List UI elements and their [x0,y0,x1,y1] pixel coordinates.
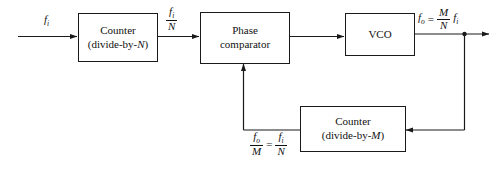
label-vco-output-equation: fo = M N fi [418,7,458,31]
vco-output-rhs: fi [453,11,458,26]
vco-output-lhs: fo [418,11,425,26]
counter-n-divisor: N [137,38,144,50]
phase-comparator-label-line2: comparator [220,38,270,52]
fraction-fi-over-n-feedback: fi N [275,131,286,158]
vco-label: VCO [368,28,391,42]
feedback-equals: = [266,138,272,150]
vco-output-equals: = [428,13,434,25]
phase-comparator-label-line1: Phase [232,24,258,38]
fraction-fo-over-m: fo M [250,131,263,158]
pll-block-diagram: Counter (divide-by-N) Phase comparator V… [0,0,498,169]
counter-m-label-line1: Counter [335,115,370,129]
block-phase-comparator[interactable]: Phase comparator [200,12,290,64]
fraction-fi-over-n: fi N [166,6,177,33]
label-feedback-equation: fo M = fi N [250,131,287,158]
counter-n-label-line1: Counter [100,24,135,38]
fraction-m-over-n: M N [437,7,450,31]
label-counter-n-output: fi N [166,6,177,33]
label-input-frequency: fi [44,13,49,28]
counter-m-label-line2: (divide-by-M) [322,129,384,143]
counter-n-label-line2: (divide-by-N) [88,38,149,52]
block-vco[interactable]: VCO [345,13,415,56]
block-counter-divide-by-m[interactable]: Counter (divide-by-M) [300,106,406,152]
block-counter-divide-by-n[interactable]: Counter (divide-by-N) [78,13,158,62]
